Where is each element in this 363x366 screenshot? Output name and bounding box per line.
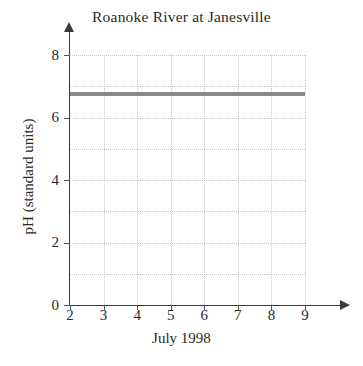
gridline-horizontal [70,274,305,275]
x-axis-tick-label: 3 [91,308,117,323]
x-axis-arrow-icon [340,300,350,310]
data-line-segment [137,92,171,95]
gridline-horizontal [70,86,305,87]
y-axis-tick-mark [64,180,70,181]
x-axis-tick-label: 8 [258,308,284,323]
gridline-horizontal [70,118,305,119]
data-line-segment [204,92,238,95]
y-axis-tick-label: 4 [33,173,59,188]
x-axis-tick-label: 6 [191,308,217,323]
y-axis-tick-label: 0 [33,298,59,313]
y-axis-tick-mark [64,55,70,56]
data-line-segment [104,92,138,95]
x-axis-title: July 1998 [0,330,363,347]
chart-title: Roanoke River at Janesville [0,8,363,26]
x-axis-tick-label: 7 [225,308,251,323]
y-axis-tick-label: 6 [33,110,59,125]
y-axis-line [69,30,70,306]
data-line-segment [70,92,104,95]
gridline-horizontal [70,55,305,56]
gridline-horizontal [70,149,305,150]
x-axis-tick-label: 9 [292,308,318,323]
chart-figure: Roanoke River at Janesville pH (standard… [0,0,363,366]
data-line-segment [271,92,305,95]
y-axis-tick-mark [64,243,70,244]
gridline-horizontal [70,243,305,244]
y-axis-arrow-icon [64,22,74,32]
data-line-segment [171,92,205,95]
data-line-segment [238,92,272,95]
y-axis-tick-mark [64,118,70,119]
plot-area [70,55,305,305]
y-axis-tick-label: 8 [33,48,59,63]
y-axis-tick-label: 2 [33,235,59,250]
x-axis-line [69,305,342,306]
x-axis-tick-label: 2 [57,308,83,323]
gridline-horizontal [70,211,305,212]
x-axis-tick-label: 5 [158,308,184,323]
x-axis-tick-label: 4 [124,308,150,323]
gridline-horizontal [70,180,305,181]
